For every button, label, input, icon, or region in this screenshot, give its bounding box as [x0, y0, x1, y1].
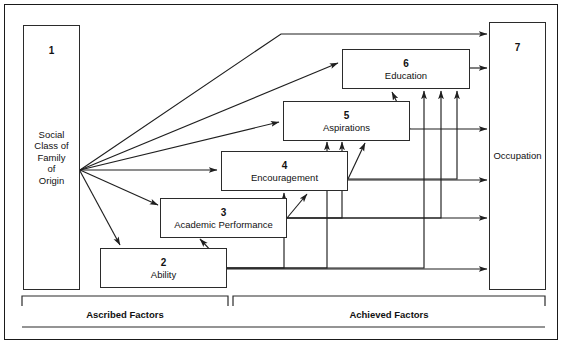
- node-1-number: 1: [24, 44, 79, 57]
- node-7-label: Occupation: [487, 150, 548, 162]
- edge-4-5: [348, 143, 365, 179]
- node-6-label: Education: [382, 70, 430, 82]
- group-label-achieved: Achieved Factors: [233, 309, 545, 320]
- node-5-label: Aspirations: [320, 122, 373, 134]
- node-box-3[interactable]: 3 Academic Performance: [160, 198, 287, 238]
- bracket-achieved: [233, 296, 545, 306]
- node-box-4[interactable]: 4 Encouragement: [221, 151, 348, 191]
- node-7-number: 7: [490, 41, 545, 54]
- edge-1-2: [80, 171, 120, 245]
- node-3-number: 3: [221, 206, 227, 219]
- edge-3-4: [287, 194, 307, 218]
- node-1-label: Social Class of Family of Origin: [21, 129, 82, 187]
- node-5-number: 5: [344, 109, 350, 122]
- node-box-2[interactable]: 2 Ability: [100, 248, 227, 288]
- node-3-label: Academic Performance: [171, 219, 276, 231]
- node-box-5[interactable]: 5 Aspirations: [283, 101, 410, 141]
- node-2-number: 2: [161, 256, 167, 269]
- node-4-label: Encouragement: [248, 172, 321, 184]
- node-box-6[interactable]: 6 Education: [342, 49, 470, 89]
- diagram-page: 1 Social Class of Family of Origin 2 Abi…: [0, 0, 564, 345]
- node-2-label: Ability: [148, 269, 179, 281]
- node-6-number: 6: [403, 57, 409, 70]
- node-box-1[interactable]: 1 Social Class of Family of Origin: [23, 25, 80, 290]
- bracket-ascribed: [22, 296, 228, 306]
- node-box-7[interactable]: 7 Occupation: [489, 22, 546, 290]
- group-label-ascribed: Ascribed Factors: [22, 309, 228, 320]
- edge-1-3: [80, 170, 158, 205]
- node-4-number: 4: [282, 159, 288, 172]
